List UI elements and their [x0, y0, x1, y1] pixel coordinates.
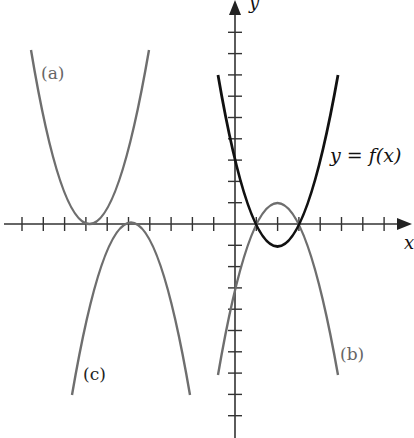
x-axis-arrow-icon [397, 218, 412, 230]
curve-a-label: (a) [41, 63, 64, 83]
curve-f-label: y = f(x) [330, 144, 401, 166]
curve-b-label: (b) [340, 344, 364, 364]
y-axis-arrow-icon [229, 0, 241, 15]
curve-c-label: (c) [83, 364, 106, 384]
x-axis-label: x [404, 232, 414, 253]
y-axis-label: y [249, 0, 259, 13]
